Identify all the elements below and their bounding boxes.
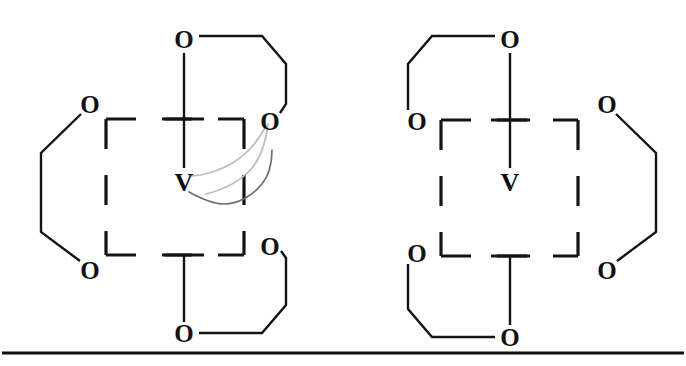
atom-o-right-upper-right: O xyxy=(597,91,616,118)
right-bridge-right-complex xyxy=(616,114,656,261)
atom-o-bottom-apex-left: O xyxy=(174,320,193,347)
atom-o-left-upper-left: O xyxy=(80,91,99,118)
figure-canvas: O O O O O O V xyxy=(0,0,686,366)
atom-v-right: V xyxy=(501,168,520,197)
atom-o-right-lower-left: O xyxy=(260,233,279,260)
bond-metal-bottom-right xyxy=(491,256,530,325)
atom-o-right-lower-right: O xyxy=(597,257,616,284)
chelate-top-right-left-complex xyxy=(199,36,286,113)
scan-artifact-scribble xyxy=(190,124,268,194)
atom-o-left-upper-right: O xyxy=(407,108,426,135)
chelate-bottom-left-right-complex xyxy=(408,264,495,337)
atom-v-left: V xyxy=(175,168,194,197)
scan-artifact-lower-stroke xyxy=(189,150,272,204)
oxo-bond-left xyxy=(165,53,204,168)
bond-metal-bottom-left xyxy=(165,255,204,322)
atom-o-left-lower-right: O xyxy=(407,240,426,267)
left-complex: O O O O O O V xyxy=(41,26,286,347)
left-bridge-left-complex xyxy=(41,114,81,261)
structure-diagram: O O O O O O V xyxy=(0,0,686,366)
atom-o-top-apex-left: O xyxy=(174,26,193,53)
atom-o-left-lower-left: O xyxy=(80,257,99,284)
chelate-bottom-right-left-complex xyxy=(199,251,286,333)
atom-o-bottom-apex-right: O xyxy=(500,324,519,351)
atom-o-top-apex-right: O xyxy=(500,26,519,53)
right-complex: O O O O O O V xyxy=(407,26,656,351)
oxo-bond-right xyxy=(491,53,530,168)
chelate-top-left-right-complex xyxy=(408,36,495,110)
atom-o-right-upper-left: O xyxy=(260,108,279,135)
